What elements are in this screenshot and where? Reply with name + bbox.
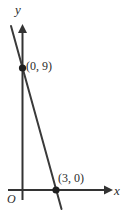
- point-label-x-intercept: (3, 0): [58, 172, 84, 184]
- y-axis: [18, 24, 27, 200]
- x-axis-arrowhead: [104, 186, 113, 195]
- x-axis: [8, 186, 113, 195]
- point-marker-x-intercept: [52, 186, 59, 193]
- x-axis-label: x: [114, 184, 120, 197]
- plotted-line: [11, 26, 62, 209]
- origin-label: O: [7, 193, 16, 205]
- y-axis-label: y: [15, 3, 21, 16]
- y-axis-arrowhead: [18, 24, 27, 33]
- point-label-y-intercept: (0, 9): [26, 60, 52, 72]
